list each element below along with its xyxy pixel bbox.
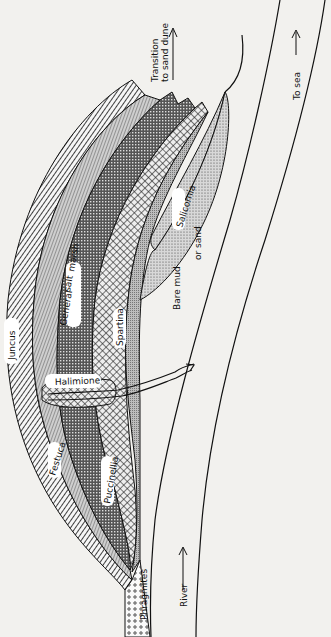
salt-marsh-zonation-diagram: Juncus General salt marsh Halimione Spar… <box>0 0 331 637</box>
label-or-sand: or sand <box>193 226 203 260</box>
label-transition: Transition <box>150 38 160 83</box>
label-spartina: Spartina <box>115 308 125 346</box>
label-juncus: Juncus <box>7 330 17 361</box>
label-halimione: Halimione <box>55 375 101 387</box>
shore-line-inner <box>225 35 243 92</box>
label-river: River <box>179 583 189 607</box>
shore-line-outer <box>196 0 325 637</box>
label-to-sand-dune: to sand dune <box>160 23 170 82</box>
label-to-sea: To sea <box>292 72 302 101</box>
label-phragmites: Phragmites <box>139 569 149 620</box>
label-bare-mud: Bare mud <box>172 266 182 310</box>
